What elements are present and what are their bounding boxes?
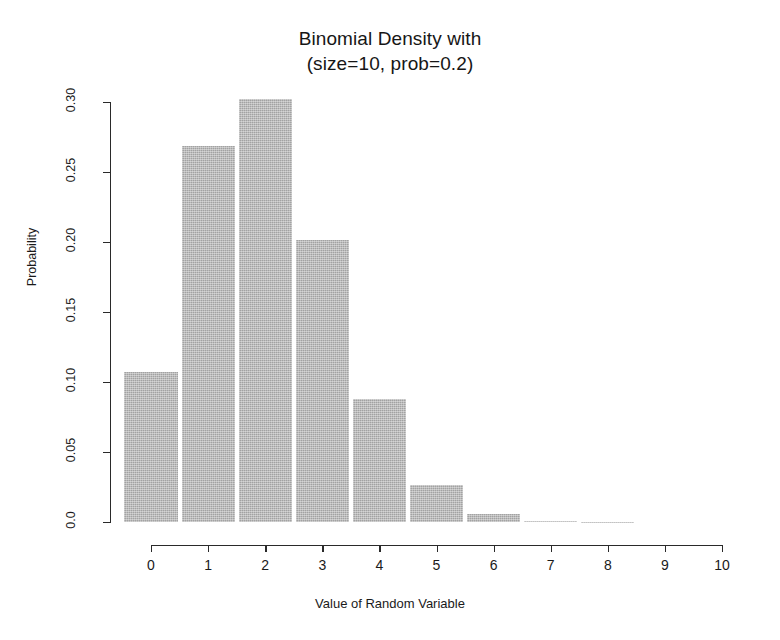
bar <box>182 146 235 522</box>
bar <box>353 399 406 522</box>
bar <box>524 521 577 522</box>
x-axis-tick-label: 3 <box>302 557 342 573</box>
x-axis-tick-label: 1 <box>188 557 228 573</box>
y-axis-tick <box>103 312 110 313</box>
y-axis-tick <box>103 382 110 383</box>
y-axis-title: Probability <box>25 187 39 327</box>
bar <box>467 514 520 522</box>
x-axis-tick <box>208 545 209 552</box>
y-axis-tick <box>103 242 110 243</box>
x-axis-tick <box>322 545 323 552</box>
chart-title: Binomial Density with (size=10, prob=0.2… <box>0 26 780 76</box>
bar <box>410 485 463 522</box>
x-axis-tick-label: 9 <box>645 557 685 573</box>
y-axis-tick-label: 0.05 <box>64 420 78 480</box>
y-axis-tick <box>103 172 110 173</box>
chart-title-line-2: (size=10, prob=0.2) <box>0 51 780 76</box>
x-axis-tick <box>608 545 609 552</box>
x-axis-tick-label: 2 <box>245 557 285 573</box>
x-axis-tick-label: 6 <box>474 557 514 573</box>
bar <box>239 99 292 522</box>
x-axis-tick <box>151 545 152 552</box>
y-axis-tick-label: 0.30 <box>64 70 78 130</box>
x-axis-tick <box>665 545 666 552</box>
x-axis-title: Value of Random Variable <box>0 596 780 611</box>
y-axis-tick <box>103 102 110 103</box>
x-axis-tick <box>437 545 438 552</box>
chart-title-line-1: Binomial Density with <box>0 26 780 51</box>
y-axis-line <box>110 102 111 523</box>
x-axis-tick-label: 5 <box>417 557 457 573</box>
x-axis-tick-label: 10 <box>702 557 742 573</box>
x-axis-tick <box>379 545 380 552</box>
bar <box>124 372 177 522</box>
y-axis-tick-label: 0.20 <box>64 210 78 270</box>
bar <box>296 240 349 522</box>
x-axis-tick-label: 0 <box>131 557 171 573</box>
y-axis-tick <box>103 452 110 453</box>
y-axis-tick-label: 0.25 <box>64 140 78 200</box>
y-axis-tick-label: 0.15 <box>64 280 78 340</box>
x-axis-tick <box>494 545 495 552</box>
bar <box>581 522 634 523</box>
y-axis-tick-label: 0.10 <box>64 350 78 410</box>
binomial-density-chart: Binomial Density with (size=10, prob=0.2… <box>0 0 780 640</box>
y-axis-tick-label: 0.0 <box>64 490 78 550</box>
x-axis-tick <box>551 545 552 552</box>
x-axis-tick-label: 7 <box>531 557 571 573</box>
x-axis-tick <box>265 545 266 552</box>
x-axis-tick-label: 4 <box>359 557 399 573</box>
x-axis-tick <box>722 545 723 552</box>
x-axis-tick-label: 8 <box>588 557 628 573</box>
y-axis-tick <box>103 522 110 523</box>
